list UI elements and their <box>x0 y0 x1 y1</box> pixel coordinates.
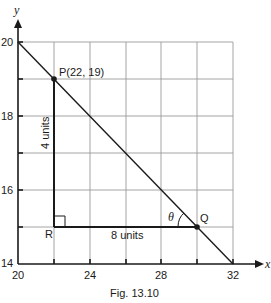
y-tick-label: 16 <box>1 184 13 196</box>
x-axis <box>18 259 264 268</box>
point-q <box>194 224 200 230</box>
x-tick-label: 28 <box>155 269 167 281</box>
y-tick-label: 20 <box>1 36 13 48</box>
figure-caption: Fig. 13.10 <box>110 287 159 299</box>
y-axis-arrow-icon <box>14 19 22 28</box>
x-tick-label: 20 <box>12 269 24 281</box>
horizontal-length-label: 8 units <box>111 229 144 241</box>
y-tick-label: 18 <box>1 110 13 122</box>
coordinate-diagram: y x 20 18 16 14 20 24 28 32 P(22, 19) Q … <box>0 0 271 303</box>
point-p <box>51 76 57 82</box>
y-axis <box>14 19 23 264</box>
x-tick-label: 32 <box>227 269 239 281</box>
y-tick-label: 14 <box>1 257 13 269</box>
right-angle-marker <box>54 216 65 227</box>
y-axis-label: y <box>13 3 20 17</box>
x-tick-label: 24 <box>84 269 96 281</box>
point-p-label: P(22, 19) <box>59 66 104 78</box>
x-axis-arrow-icon <box>255 260 264 268</box>
point-r-label: R <box>45 228 53 240</box>
x-axis-label: x <box>264 257 271 271</box>
point-q-label: Q <box>200 212 209 224</box>
angle-label: θ <box>168 210 174 224</box>
angle-arc <box>178 213 184 227</box>
vertical-length-label: 4 units <box>39 116 51 149</box>
